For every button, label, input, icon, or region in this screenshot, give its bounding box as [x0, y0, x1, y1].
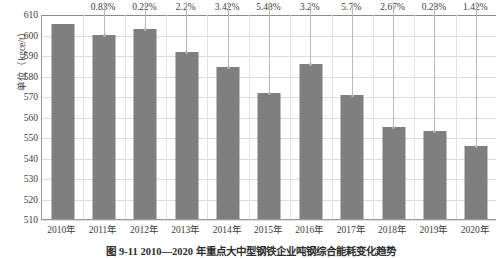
bar[interactable] — [217, 67, 240, 219]
bar[interactable] — [341, 95, 364, 219]
x-tick-label: 2015年 — [254, 222, 283, 236]
bar[interactable] — [299, 64, 322, 219]
figure-container: 单位（kgce/t） 0.83%0.22%2.2%3.42%5.48%3.2%5… — [0, 0, 502, 258]
leader-line — [186, 2, 187, 53]
bar-slot — [125, 15, 166, 219]
plot-area: 510520530540550560570580590600610 — [41, 15, 496, 220]
y-tick-label: 530 — [24, 174, 38, 184]
x-tick-label: 2017年 — [337, 222, 366, 236]
bar-slot — [249, 15, 290, 219]
leader-dot-marker — [351, 94, 354, 97]
leader-line — [310, 2, 311, 65]
y-tick-label: 580 — [24, 72, 38, 82]
x-tick-label: 2020年 — [461, 222, 490, 236]
bar[interactable] — [51, 24, 74, 219]
leader-line — [476, 2, 477, 147]
x-tick-label: 2012年 — [130, 222, 159, 236]
y-tick-label: 520 — [24, 195, 38, 205]
bar-slot — [166, 15, 207, 219]
leader-line — [269, 2, 270, 94]
bar-slot — [414, 15, 455, 219]
leader-dot-marker — [103, 34, 106, 37]
leader-line — [228, 2, 229, 68]
bar-slot — [207, 15, 248, 219]
x-tick-label: 2011年 — [89, 222, 118, 236]
bar[interactable] — [175, 52, 198, 219]
bar[interactable] — [465, 146, 488, 219]
y-tick-label: 570 — [24, 92, 38, 102]
bar[interactable] — [93, 35, 116, 220]
figure-caption: 图 9-11 2010—2020 年重点大中型钢铁企业吨钢综合能耗变化趋势 — [0, 243, 502, 258]
x-tick-label: 2014年 — [213, 222, 242, 236]
bar[interactable] — [134, 29, 157, 219]
bar-slot — [83, 15, 124, 219]
bar-slot — [42, 15, 83, 219]
leader-dot-marker — [268, 92, 271, 95]
leader-line — [434, 2, 435, 132]
bar-slot — [456, 15, 497, 219]
y-tick-label: 610 — [24, 10, 38, 20]
y-tick-label: 550 — [24, 133, 38, 143]
y-tick-label: 590 — [24, 51, 38, 61]
x-tick-label: 2010年 — [47, 222, 76, 236]
y-tick-label: 510 — [24, 215, 38, 225]
bars-layer — [42, 15, 496, 219]
bar[interactable] — [423, 131, 446, 219]
bar-slot — [332, 15, 373, 219]
leader-line — [145, 2, 146, 30]
y-tick-label: 560 — [24, 113, 38, 123]
leader-line — [393, 2, 394, 128]
leader-line — [104, 2, 105, 36]
x-tick-label: 2019年 — [419, 222, 448, 236]
bar[interactable] — [382, 127, 405, 219]
x-tick-label: 2013年 — [171, 222, 200, 236]
x-axis-labels: 2010年2011年2012年2013年2014年2015年2016年2017年… — [41, 222, 496, 236]
bar-slot — [373, 15, 414, 219]
x-tick-label: 2018年 — [378, 222, 407, 236]
bar-slot — [290, 15, 331, 219]
y-tick-label: 600 — [24, 31, 38, 41]
gridline — [42, 220, 496, 221]
x-tick-label: 2016年 — [295, 222, 324, 236]
bar[interactable] — [258, 93, 281, 219]
leader-line — [352, 2, 353, 96]
leader-dot-marker — [392, 126, 395, 129]
y-tick-label: 540 — [24, 154, 38, 164]
